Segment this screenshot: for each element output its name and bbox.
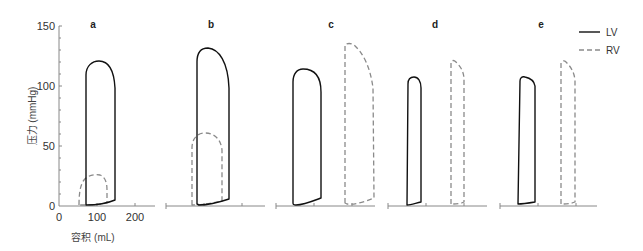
y-axis: 150 100 50 0 压力 (mmHg) bbox=[26, 20, 62, 212]
rv-loop-e bbox=[561, 61, 575, 204]
rv-loop-a bbox=[79, 175, 107, 205]
rv-loop-d bbox=[451, 61, 464, 205]
x-axis-a: 0 100 200 容积 (mL) bbox=[56, 203, 155, 243]
ytick-150: 150 bbox=[37, 20, 55, 32]
x-axis-title: 容积 (mL) bbox=[71, 231, 114, 243]
panel-label-b: b bbox=[208, 19, 214, 30]
panel-d bbox=[407, 61, 464, 206]
lv-loop-e bbox=[518, 77, 535, 204]
legend: LV RV bbox=[579, 27, 620, 56]
legend-rv-label: RV bbox=[606, 45, 620, 56]
x-axis-c bbox=[276, 203, 375, 209]
x-axis-b bbox=[166, 203, 265, 209]
xtick-0: 0 bbox=[56, 211, 62, 223]
panel-c bbox=[293, 44, 374, 206]
lv-loop-a bbox=[86, 61, 115, 205]
rv-loop-c bbox=[345, 44, 374, 205]
panel-a bbox=[79, 61, 115, 205]
lv-loop-b bbox=[197, 48, 229, 205]
legend-lv-label: LV bbox=[606, 27, 618, 38]
lv-loop-d bbox=[407, 77, 421, 205]
panel-label-d: d bbox=[432, 19, 438, 30]
lv-loop-c bbox=[293, 69, 321, 205]
x-axis-e bbox=[500, 203, 597, 209]
xtick-100: 100 bbox=[88, 211, 106, 223]
panel-e bbox=[518, 61, 575, 204]
pv-loop-figure: 150 100 50 0 压力 (mmHg) 0 100 200 容积 (mL) bbox=[0, 0, 643, 251]
panel-b bbox=[192, 48, 229, 205]
y-axis-title: 压力 (mmHg) bbox=[26, 87, 38, 146]
panel-label-e: e bbox=[538, 19, 544, 30]
panel-label-a: a bbox=[90, 19, 96, 30]
xtick-200: 200 bbox=[126, 211, 144, 223]
ytick-0: 0 bbox=[49, 200, 55, 212]
panel-label-c: c bbox=[328, 19, 334, 30]
ytick-100: 100 bbox=[37, 80, 55, 92]
x-axis-d bbox=[388, 203, 487, 209]
ytick-50: 50 bbox=[43, 140, 55, 152]
